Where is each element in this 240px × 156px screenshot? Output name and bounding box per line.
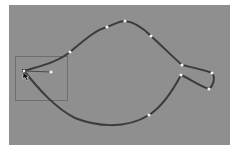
anchor-point-stem-bottom-base[interactable] <box>179 73 182 76</box>
anchor-point-bottom[interactable] <box>147 113 150 116</box>
leaf-path[interactable] <box>24 21 214 125</box>
anchor-point-stem-end-bottom[interactable] <box>207 87 210 90</box>
anchor-point-top-left[interactable] <box>105 25 108 28</box>
anchor-point-upper-left[interactable] <box>68 50 71 53</box>
anchor-point-top[interactable] <box>123 19 126 22</box>
anchor-point-stem-top-base[interactable] <box>180 63 183 66</box>
anchor-point-upper-right[interactable] <box>149 34 152 37</box>
bezier-handle-point[interactable] <box>49 70 52 73</box>
anchor-point-stem-end-top[interactable] <box>210 71 213 74</box>
bezier-handle-line <box>24 71 51 72</box>
editor-page: leaf-outline direct-selection-arrow <box>0 0 240 156</box>
vector-artwork[interactable] <box>0 0 240 156</box>
